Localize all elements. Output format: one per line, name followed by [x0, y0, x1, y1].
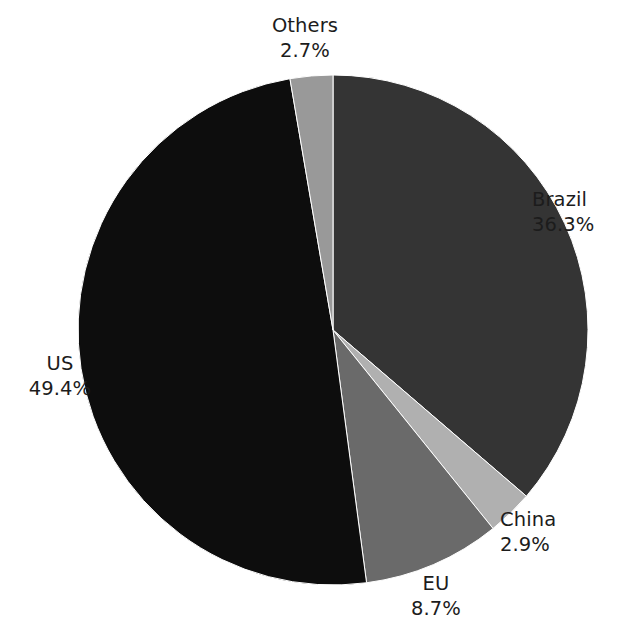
- pie-label-others: Others 2.7%: [240, 14, 370, 64]
- pie-label-china-value: 2.9%: [500, 533, 604, 558]
- pie-chart: Others 2.7% Brazil 36.3% China 2.9% EU 8…: [0, 0, 640, 637]
- pie-label-china: China 2.9%: [500, 508, 604, 558]
- pie-label-others-value: 2.7%: [240, 39, 370, 64]
- pie-label-us: US 49.4%: [8, 352, 112, 402]
- pie-label-brazil: Brazil 36.3%: [532, 188, 636, 238]
- pie-label-eu-value: 8.7%: [386, 597, 486, 622]
- pie-label-china-name: China: [500, 508, 604, 533]
- pie-label-us-name: US: [8, 352, 112, 377]
- pie-label-brazil-name: Brazil: [532, 188, 636, 213]
- pie-label-others-name: Others: [240, 14, 370, 39]
- pie-label-eu-name: EU: [386, 572, 486, 597]
- pie-label-eu: EU 8.7%: [386, 572, 486, 622]
- pie-label-brazil-value: 36.3%: [532, 213, 636, 238]
- pie-label-us-value: 49.4%: [8, 377, 112, 402]
